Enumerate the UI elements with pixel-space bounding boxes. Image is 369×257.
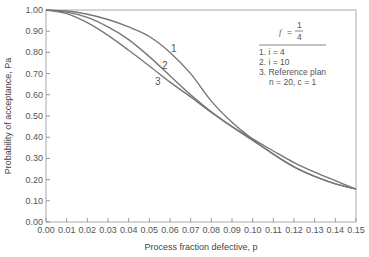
y-tick-label: 0.30	[25, 153, 43, 163]
legend: f=141. i = 42. i = 103. Reference plann …	[259, 20, 326, 87]
legend-fraction-num: 1	[297, 20, 302, 30]
x-tick-label: 0.01	[58, 225, 76, 235]
y-tick-label: 0.60	[25, 90, 43, 100]
y-tick-label: 0.20	[25, 175, 43, 185]
curve-2	[46, 10, 356, 189]
x-tick-label: 0.15	[347, 225, 365, 235]
y-tick-label: 0.50	[25, 111, 43, 121]
x-tick-label: 0.03	[99, 225, 117, 235]
x-tick-label: 0.07	[182, 225, 200, 235]
y-tick-label: 0.90	[25, 26, 43, 36]
x-tick-label: 0.14	[327, 225, 345, 235]
x-tick-label: 0.13	[306, 225, 324, 235]
curves	[46, 10, 356, 189]
x-tick-label: 0.06	[161, 225, 179, 235]
legend-fraction-den: 4	[297, 32, 302, 42]
x-tick-label: 0.02	[79, 225, 97, 235]
x-axis-title: Process fraction defective, p	[144, 242, 257, 252]
curve-label-3: 3	[155, 76, 161, 87]
oc-curve-chart: 0.000.100.200.300.400.500.600.700.800.90…	[0, 0, 369, 257]
legend-entry: n = 20, c = 1	[269, 77, 317, 87]
x-tick-label: 0.12	[285, 225, 303, 235]
x-tick-label: 0.09	[223, 225, 241, 235]
legend-header: f	[279, 27, 283, 37]
axes: 0.000.100.200.300.400.500.600.700.800.90…	[25, 5, 364, 235]
curve-3	[46, 10, 356, 189]
curve-label-2: 2	[162, 60, 168, 71]
legend-entry: 2. i = 10	[259, 57, 290, 67]
y-tick-label: 0.80	[25, 47, 43, 57]
y-axis-title: Probability of acceptance, Pa	[3, 58, 13, 175]
y-tick-label: 1.00	[25, 5, 43, 15]
y-tick-label: 0.70	[25, 69, 43, 79]
curve-1	[46, 10, 356, 189]
x-tick-label: 0.08	[203, 225, 221, 235]
legend-equals: =	[287, 27, 292, 37]
y-tick-label: 0.40	[25, 132, 43, 142]
y-tick-label: 0.10	[25, 196, 43, 206]
legend-entry: 3. Reference plan	[259, 67, 326, 77]
x-tick-label: 0.11	[265, 225, 282, 235]
legend-entry: 1. i = 4	[259, 47, 285, 57]
x-tick-label: 0.04	[120, 225, 138, 235]
x-tick-label: 0.10	[244, 225, 262, 235]
curve-label-1: 1	[171, 43, 177, 54]
x-tick-label: 0.00	[37, 225, 55, 235]
plot-frame	[46, 10, 356, 222]
x-tick-label: 0.05	[141, 225, 159, 235]
